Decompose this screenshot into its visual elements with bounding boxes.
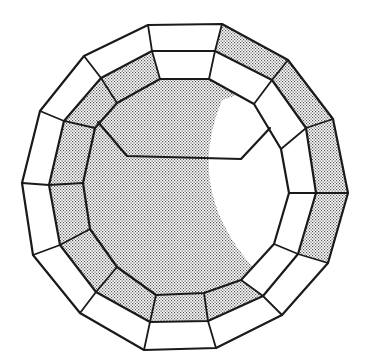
middle-band-segment [152,51,215,79]
fourteen-gon-ring-diagram [0,0,366,364]
outer-band-segment [148,24,222,51]
diagram-canvas [0,0,366,364]
outer-band-segment [144,321,216,350]
middle-band-segment [150,293,208,322]
